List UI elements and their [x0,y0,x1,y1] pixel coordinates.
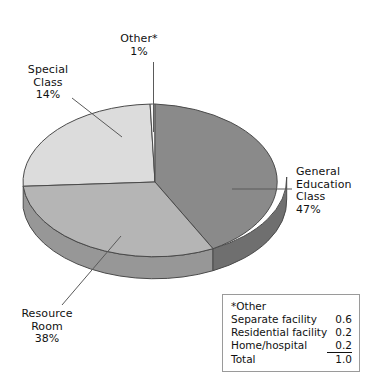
other-table-title: *Other [231,300,352,313]
row-value-separate-facility: 0.6 [327,313,352,326]
row-label-residential-facility: Residential facility [231,326,327,339]
slice-label-general-education: General Education Class 47% [296,166,366,216]
pie-chart-figure: Other* 1% Special Class 14% General Educ… [0,0,368,389]
slice-label-other: Other* 1% [96,33,182,58]
table-row: Residential facility 0.2 [231,326,352,339]
other-breakdown-table: *Other Separate facility 0.6 Residential… [222,294,360,372]
row-value-home-hospital: 0.2 [327,339,352,353]
table-row: Home/hospital 0.2 [231,339,352,353]
row-label-total: Total [231,353,327,367]
table-row-total: Total 1.0 [231,353,352,367]
slice-label-resource-room: Resource Room 38% [2,308,92,346]
slice-special-class [23,104,155,186]
row-value-total: 1.0 [327,353,352,367]
row-value-residential-facility: 0.2 [327,326,352,339]
pie-top-faces [23,104,277,257]
other-table-grid: Separate facility 0.6 Residential facili… [231,313,352,366]
row-label-home-hospital: Home/hospital [231,339,327,353]
row-label-separate-facility: Separate facility [231,313,327,326]
table-row: Separate facility 0.6 [231,313,352,326]
slice-label-special-class: Special Class 14% [4,64,92,102]
